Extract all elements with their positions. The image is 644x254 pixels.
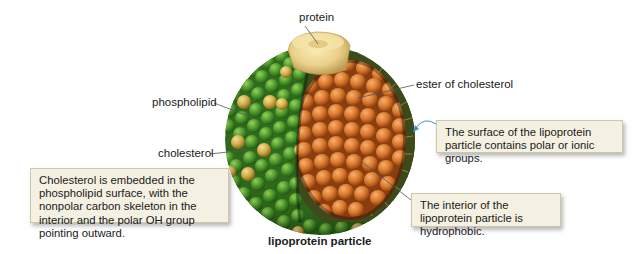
cholesterol-callout: Cholesterol is embedded in the phospholi… [30,168,229,223]
figure-caption: lipoprotein particle [268,235,372,247]
interior-callout: The interior of the lipoprotein particle… [411,193,561,227]
protein-label: protein [299,11,334,24]
phospholipid-label: phospholipid [152,96,217,109]
cutaway-interior [286,50,418,230]
surface-callout: The surface of the lipoprotein particle … [436,120,623,153]
cholesterol-label: cholesterol [158,147,214,160]
protein-cap [288,32,350,75]
surface-arrow [413,121,436,132]
ester-of-cholesterol-label: ester of cholesterol [416,78,513,91]
lipoprotein-figure: protein ester of cholesterol phospholipi… [0,0,644,254]
